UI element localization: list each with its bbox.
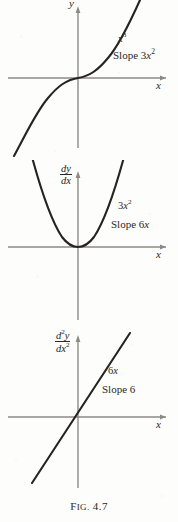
panel2-y-axis-numerator: dy xyxy=(60,163,72,174)
panel1-curve-label: x3 xyxy=(118,32,126,44)
parabola-plot-svg xyxy=(0,160,178,325)
figure-container: y x x3 Slope 3x2 dy dx x 3x2 xyxy=(0,0,178,522)
panel1-curve-exponent: 3 xyxy=(123,31,127,39)
y-axis-arrowhead xyxy=(76,6,81,13)
panel2-curve-label: 3x2 xyxy=(118,199,131,211)
figure-caption: FIG. 4.7 xyxy=(0,500,178,512)
panel1-y-axis-label: y xyxy=(69,0,74,9)
panel2-slope-base: x xyxy=(144,218,149,230)
plot-panel-second-derivative: d2y dx2 x 6x Slope 6 xyxy=(0,325,178,495)
panel2-x-axis-label: x xyxy=(156,249,161,260)
y-axis-arrowhead xyxy=(76,335,81,342)
panel2-slope-label: Slope 6x xyxy=(111,219,149,230)
y-axis-arrowhead xyxy=(76,171,81,178)
panel3-denominator-dx: dx xyxy=(56,342,66,353)
cubic-plot-svg xyxy=(0,0,178,160)
panel3-y-axis-label: d2y dx2 xyxy=(55,329,70,354)
panel3-y-axis-numerator: d2y xyxy=(55,329,70,341)
panel1-slope-exponent: 2 xyxy=(151,47,155,56)
plot-panel-cubic: y x x3 Slope 3x2 xyxy=(0,0,178,160)
line-plot-svg xyxy=(0,325,178,495)
panel2-curve-exponent: 2 xyxy=(128,198,132,206)
plot-panel-first-derivative: dy dx x 3x2 Slope 6x xyxy=(0,160,178,325)
panel1-x-axis-label: x xyxy=(156,80,161,91)
panel3-curve-label: 6x xyxy=(108,366,118,377)
panel3-slope-label: Slope 6 xyxy=(102,384,135,395)
panel2-y-axis-label: dy dx xyxy=(60,163,72,187)
panel3-x-axis-label: x xyxy=(156,419,161,430)
panel3-curve-base: x xyxy=(113,365,118,376)
caption-smallcaps: IG. xyxy=(77,502,90,512)
panel1-slope-prefix: Slope 3 xyxy=(113,49,146,61)
panel3-denominator-exponent: 2 xyxy=(66,341,70,349)
panel2-y-axis-denominator: dx xyxy=(60,174,72,186)
panel3-y-axis-denominator: dx2 xyxy=(55,341,70,354)
panel3-numerator-y: y xyxy=(65,330,70,341)
caption-number: 4.7 xyxy=(93,500,108,512)
panel2-slope-prefix: Slope 6 xyxy=(111,218,144,230)
linear-curve xyxy=(32,333,130,483)
panel1-slope-label: Slope 3x2 xyxy=(113,48,155,61)
